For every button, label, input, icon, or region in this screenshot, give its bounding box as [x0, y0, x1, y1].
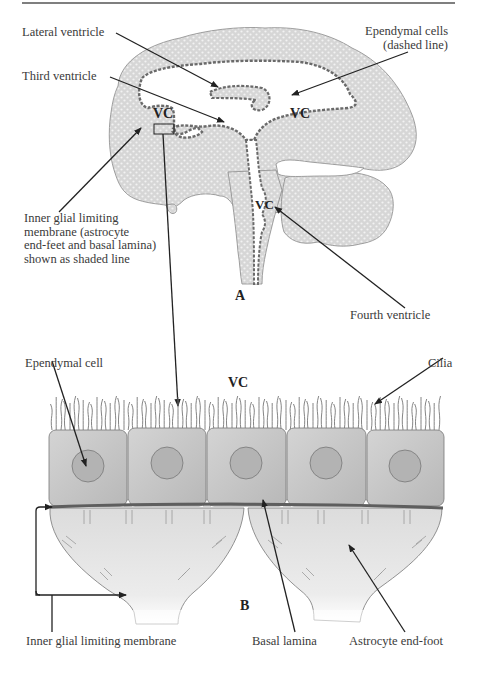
astrocyte-end-foot-left — [50, 508, 244, 624]
astrocyte-end-foot-right — [248, 508, 442, 622]
vc-label: VC — [255, 197, 274, 212]
label-ependymal-cell: Ependymal cell — [25, 356, 103, 370]
label-inner-glial-b: Inner glial limiting membrane — [26, 634, 176, 648]
panel-a-label: A — [235, 288, 246, 303]
nucleus — [72, 450, 104, 482]
nucleus — [230, 447, 262, 479]
label-inner-glial-a: Inner glial limiting membrane (astrocyte… — [24, 212, 156, 266]
label-third-ventricle: Third ventricle — [22, 69, 97, 83]
cilia — [51, 396, 441, 430]
ventricle-diagram: VC VC VC A — [0, 0, 480, 678]
nucleus — [310, 447, 342, 479]
label-lateral-ventricle: Lateral ventricle — [22, 25, 104, 39]
label-basal-lamina: Basal lamina — [252, 634, 317, 648]
label-ependymal-cells: Ependymal cells (dashed line) — [330, 24, 448, 52]
label-cilia: Cilia — [428, 356, 452, 370]
cerebellum-shape — [281, 171, 393, 246]
vc-label-b: VC — [228, 375, 248, 390]
panel-b-label: B — [240, 598, 249, 613]
label-astrocyte-end-foot: Astrocyte end-foot — [349, 634, 443, 648]
ependymal-cells — [49, 428, 444, 506]
label-fourth-ventricle: Fourth ventricle — [350, 308, 430, 322]
vc-label: VC — [290, 106, 310, 121]
nucleus — [389, 450, 421, 482]
nucleus — [151, 447, 183, 479]
vc-label: VC — [153, 106, 173, 121]
